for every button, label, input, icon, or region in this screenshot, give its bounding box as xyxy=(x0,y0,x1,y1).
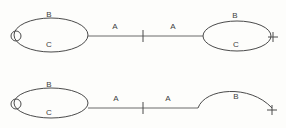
label-top-connector-a-left: A xyxy=(112,23,118,31)
label-bottom-right-arc-b: B xyxy=(233,93,239,101)
label-top-left-ellipse-c: C xyxy=(46,41,52,49)
top-left-open-circle-marker xyxy=(11,31,21,41)
label-bottom-connector-a-right: A xyxy=(165,95,171,103)
diagram-vector-layer xyxy=(0,0,286,128)
label-top-right-ellipse-c: C xyxy=(233,41,239,49)
label-top-right-ellipse-b: B xyxy=(232,12,238,20)
label-top-left-ellipse-b: B xyxy=(46,11,52,19)
label-bottom-left-ellipse-b: B xyxy=(46,81,52,89)
label-bottom-left-ellipse-c: C xyxy=(46,109,52,117)
label-top-connector-a-right: A xyxy=(170,23,176,31)
diagram-canvas: B C A A B C B C A A B xyxy=(0,0,286,128)
label-bottom-connector-a-left: A xyxy=(113,95,119,103)
